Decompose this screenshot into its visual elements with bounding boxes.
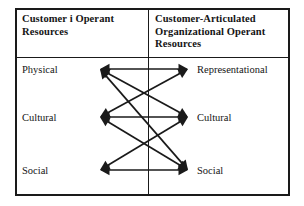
left-header-line-1: Customer i Operant	[22, 13, 144, 26]
right-header-line-1: Customer-Articulated	[155, 13, 285, 26]
right-column-header: Customer-Articulated Organizational Oper…	[155, 13, 285, 51]
relationship-diagram: Customer i Operant Resources Customer-Ar…	[0, 0, 304, 206]
node-right-representational: Representational	[197, 64, 268, 75]
right-header-line-2: Organizational Operant	[155, 26, 285, 39]
left-header-line-2: Resources	[22, 26, 144, 39]
right-header-line-3: Resources	[155, 38, 285, 51]
node-left-social: Social	[22, 165, 48, 176]
header-divider	[15, 57, 290, 58]
node-right-cultural: Cultural	[197, 112, 231, 123]
node-left-cultural: Cultural	[22, 112, 56, 123]
left-column-header: Customer i Operant Resources	[22, 13, 144, 38]
node-right-social: Social	[197, 165, 223, 176]
node-left-physical: Physical	[22, 64, 58, 75]
column-divider	[148, 8, 149, 196]
